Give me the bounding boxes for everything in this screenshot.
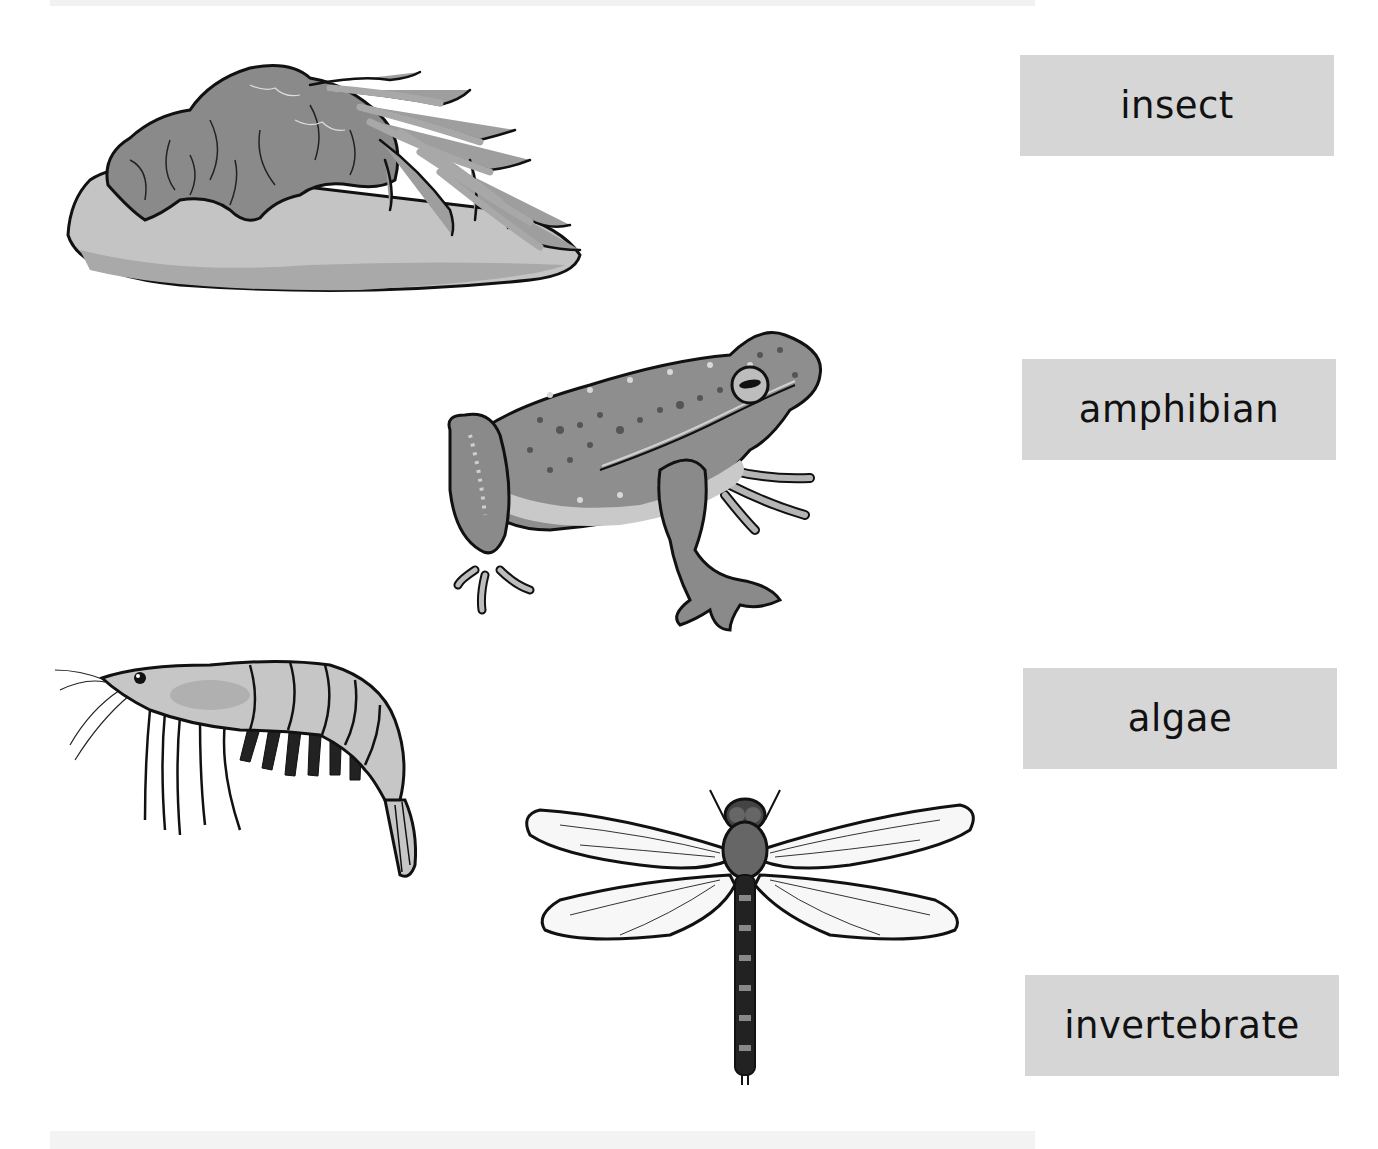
top-edge-bar: [50, 0, 1035, 6]
shrimp-illustration[interactable]: [50, 650, 430, 880]
label-card-insect[interactable]: insect: [1020, 55, 1334, 156]
label-card-algae[interactable]: algae: [1023, 668, 1337, 769]
label-card-amphibian[interactable]: amphibian: [1022, 359, 1336, 460]
label-text: amphibian: [1079, 388, 1279, 431]
label-text: insect: [1120, 84, 1234, 127]
shrimp-icon: [50, 650, 430, 880]
label-card-invertebrate[interactable]: invertebrate: [1025, 975, 1339, 1076]
dragonfly-illustration[interactable]: [520, 785, 980, 1085]
algae-rock-icon: [60, 60, 600, 295]
label-text: algae: [1128, 697, 1232, 740]
algae-rock-illustration[interactable]: [60, 60, 600, 295]
bottom-edge-bar: [50, 1131, 1035, 1149]
frog-icon: [440, 320, 830, 655]
label-text: invertebrate: [1064, 1004, 1300, 1047]
frog-illustration[interactable]: [440, 320, 830, 655]
dragonfly-icon: [520, 785, 980, 1085]
